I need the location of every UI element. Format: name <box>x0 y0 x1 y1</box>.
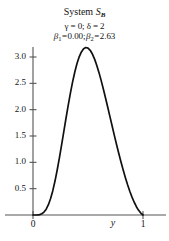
x-axis-label: y <box>106 218 120 228</box>
x-tick-label: 0 <box>26 219 40 229</box>
y-tick-label: 0.5 <box>4 184 26 193</box>
x-tick-label: 1 <box>136 219 150 229</box>
y-tick-label: 1.5 <box>4 131 26 140</box>
y-tick-label: 1.0 <box>4 157 26 166</box>
plot-area <box>0 0 169 241</box>
y-tick-label: 2.5 <box>4 78 26 87</box>
y-tick-label: 2.0 <box>4 105 26 114</box>
chart-figure: System SB γ = 0; δ = 2 β1 = 0.00; β2 = 2… <box>0 0 169 241</box>
density-curve <box>33 48 143 215</box>
y-tick-label: 3.0 <box>4 52 26 61</box>
